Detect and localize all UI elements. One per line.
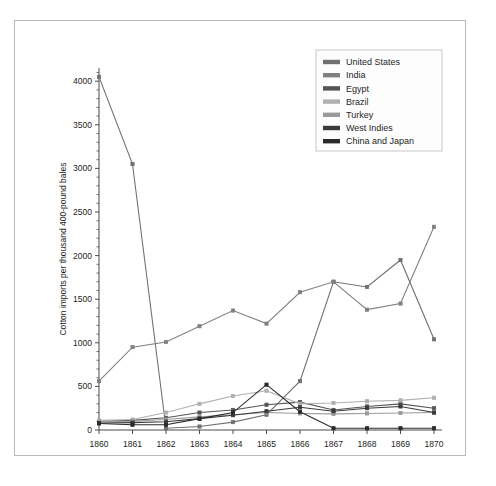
- x-tick-label: 1870: [425, 439, 444, 449]
- legend-swatch: [323, 86, 340, 90]
- data-point: [399, 427, 402, 430]
- data-point: [198, 325, 201, 328]
- x-tick-label: 1865: [257, 439, 276, 449]
- data-point: [298, 406, 301, 409]
- data-point: [265, 383, 268, 386]
- data-point: [265, 410, 268, 413]
- legend-label: West Indies: [346, 123, 393, 133]
- series-path: [99, 227, 434, 381]
- data-point: [231, 309, 234, 312]
- data-point: [432, 396, 435, 399]
- x-tick-label: 1860: [90, 439, 109, 449]
- y-tick-label: 2000: [73, 251, 92, 261]
- y-axis-title: Cotton imports per thousand 400-pound ba…: [58, 163, 68, 336]
- data-point: [265, 403, 268, 406]
- legend-swatch: [323, 99, 340, 103]
- data-point: [365, 407, 368, 410]
- y-tick-label: 3500: [73, 120, 92, 130]
- data-point: [399, 258, 402, 261]
- legend-label: United States: [346, 57, 401, 67]
- x-tick-label: 1863: [190, 439, 209, 449]
- data-point: [265, 322, 268, 325]
- data-point: [131, 162, 134, 165]
- data-point: [432, 427, 435, 430]
- data-point: [97, 75, 100, 78]
- data-point: [164, 427, 167, 430]
- legend: United StatesIndiaEgyptBrazilTurkeyWest …: [316, 50, 442, 151]
- y-tick-label: 2500: [73, 207, 92, 217]
- x-tick-label: 1866: [291, 439, 310, 449]
- data-point: [399, 399, 402, 402]
- legend-swatch: [323, 126, 340, 130]
- data-point: [298, 291, 301, 294]
- data-point: [164, 411, 167, 414]
- data-point: [365, 308, 368, 311]
- data-point: [399, 405, 402, 408]
- chart-figure: 0500100015002000250030003500400018601861…: [0, 0, 496, 486]
- x-tick-label: 1864: [224, 439, 243, 449]
- data-point: [198, 411, 201, 414]
- data-point: [298, 410, 301, 413]
- x-tick-label: 1868: [358, 439, 377, 449]
- data-point: [298, 402, 301, 405]
- data-point: [365, 400, 368, 403]
- data-point: [365, 427, 368, 430]
- legend-label: China and Japan: [346, 136, 414, 146]
- data-point: [131, 346, 134, 349]
- x-tick-label: 1867: [324, 439, 343, 449]
- legend-label: Egypt: [346, 84, 370, 94]
- legend-label: India: [346, 70, 366, 80]
- data-point: [265, 389, 268, 392]
- legend-swatch: [323, 113, 340, 117]
- legend-swatch: [323, 60, 340, 64]
- data-point: [231, 394, 234, 397]
- data-point: [164, 340, 167, 343]
- data-point: [365, 412, 368, 415]
- data-point: [198, 425, 201, 428]
- x-tick-label: 1861: [123, 439, 142, 449]
- y-tick-label: 1000: [73, 338, 92, 348]
- y-tick-label: 1500: [73, 294, 92, 304]
- data-point: [399, 411, 402, 414]
- data-point: [231, 421, 234, 424]
- y-tick-label: 4000: [73, 76, 92, 86]
- x-tick-label: 1862: [157, 439, 176, 449]
- y-tick-label: 0: [87, 425, 92, 435]
- line-chart: 0500100015002000250030003500400018601861…: [0, 0, 496, 486]
- data-point: [332, 280, 335, 283]
- data-point: [432, 338, 435, 341]
- legend-label: Brazil: [346, 97, 369, 107]
- data-point: [432, 411, 435, 414]
- data-point: [231, 411, 234, 414]
- series-india: [97, 225, 435, 383]
- data-point: [298, 380, 301, 383]
- x-tick-label: 1869: [391, 439, 410, 449]
- legend-swatch: [323, 139, 340, 143]
- data-point: [432, 225, 435, 228]
- legend-swatch: [323, 73, 340, 77]
- data-point: [131, 423, 134, 426]
- data-point: [332, 410, 335, 413]
- data-point: [198, 417, 201, 420]
- data-point: [365, 285, 368, 288]
- data-point: [399, 302, 402, 305]
- data-point: [432, 407, 435, 410]
- legend-label: Turkey: [346, 110, 374, 120]
- data-point: [97, 380, 100, 383]
- data-point: [97, 422, 100, 425]
- data-point: [332, 401, 335, 404]
- y-tick-label: 3000: [73, 163, 92, 173]
- data-point: [164, 423, 167, 426]
- data-point: [198, 402, 201, 405]
- y-tick-label: 500: [78, 381, 92, 391]
- data-point: [332, 427, 335, 430]
